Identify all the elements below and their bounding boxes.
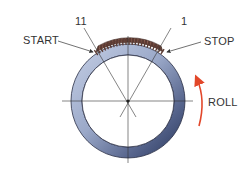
start-label: START <box>23 34 59 46</box>
center-point <box>126 99 129 102</box>
pipe-weld-diagram <box>0 0 248 173</box>
roll-arrow-icon <box>197 79 202 126</box>
clock-1-label: 1 <box>181 15 187 27</box>
stop-pointer-arrow <box>167 42 201 52</box>
clock-11-label: 11 <box>75 15 87 27</box>
start-pointer-arrow <box>58 41 93 52</box>
stop-label: STOP <box>204 35 235 47</box>
roll-label: ROLL <box>208 96 238 108</box>
